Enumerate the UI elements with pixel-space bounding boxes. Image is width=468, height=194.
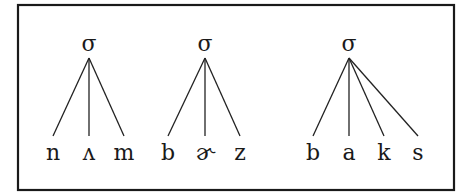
segment-label: z	[234, 140, 246, 165]
syllable-tree-1: nʌmσ	[46, 31, 135, 165]
segment-label: ɚ	[196, 140, 216, 165]
syllable-tree-2: bɚzσ	[161, 31, 246, 165]
segment-label: b	[161, 140, 175, 165]
branch-line	[89, 58, 124, 136]
segment-label: ʌ	[82, 140, 96, 165]
syllable-node-sigma: σ	[197, 31, 212, 56]
syllable-node-sigma: σ	[341, 31, 356, 56]
syllable-tree-diagram: nʌmσbɚzσbaksσ	[0, 0, 468, 194]
branch-line	[168, 58, 205, 136]
branch-line	[349, 58, 384, 136]
trees-group: nʌmσbɚzσbaksσ	[46, 31, 424, 165]
segment-label: a	[342, 140, 355, 165]
segment-label: n	[46, 140, 60, 165]
branch-line	[313, 58, 349, 136]
branch-line	[53, 58, 89, 136]
syllable-tree-3: baksσ	[306, 31, 424, 165]
segment-label: b	[306, 140, 320, 165]
branch-line	[349, 58, 418, 136]
segment-label: k	[377, 140, 391, 165]
segment-label: m	[114, 140, 135, 165]
segment-label: s	[412, 140, 423, 165]
syllable-node-sigma: σ	[81, 31, 96, 56]
branch-line	[205, 58, 240, 136]
